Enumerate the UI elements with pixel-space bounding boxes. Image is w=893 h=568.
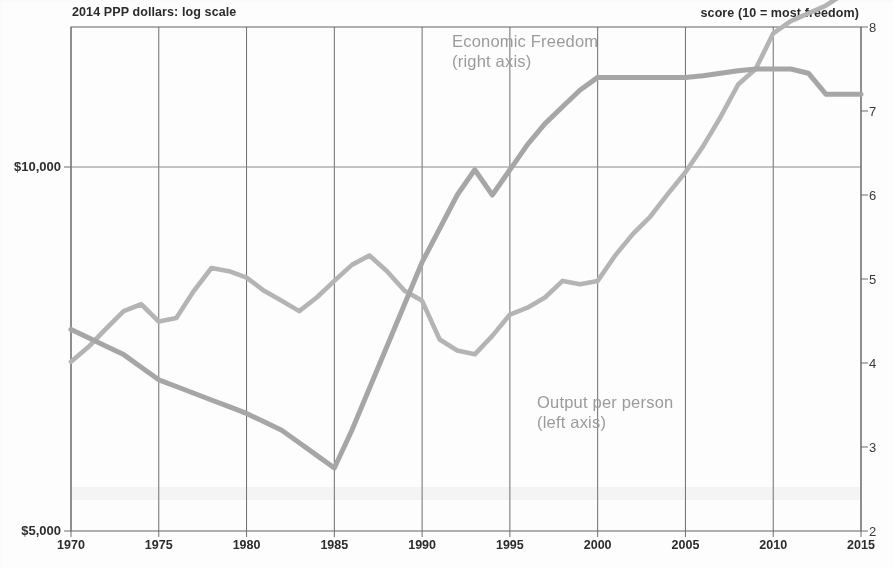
chart-plot-area — [0, 0, 893, 568]
x-axis-tick-2000: 2000 — [584, 538, 612, 552]
annotation-economic-freedom-line1: Economic Freedom — [452, 31, 598, 51]
annotation-output-per-person: Output per person (left axis) — [537, 392, 673, 432]
right-axis-tick-2: 2 — [869, 524, 876, 539]
right-axis-tick-7: 7 — [869, 104, 876, 119]
x-axis-tick-1985: 1985 — [320, 538, 348, 552]
x-axis-tick-1995: 1995 — [496, 538, 524, 552]
x-axis-tick-2005: 2005 — [672, 538, 700, 552]
right-axis-tick-8: 8 — [869, 20, 876, 35]
plot-background — [71, 27, 861, 531]
x-axis-tick-1990: 1990 — [408, 538, 436, 552]
right-axis-tick-4: 4 — [869, 356, 876, 371]
x-axis-tick-1970: 1970 — [57, 538, 85, 552]
x-axis-tick-2010: 2010 — [759, 538, 787, 552]
left-axis-tick-10000: $10,000 — [14, 159, 61, 174]
x-axis-tick-1975: 1975 — [145, 538, 173, 552]
x-axis-tick-1980: 1980 — [233, 538, 261, 552]
chart-container: 2014 PPP dollars: log scale score (10 = … — [0, 0, 893, 568]
right-axis-tick-6: 6 — [869, 188, 876, 203]
annotation-economic-freedom-line2: (right axis) — [452, 51, 598, 71]
right-axis-tick-3: 3 — [869, 440, 876, 455]
annotation-output-per-person-line1: Output per person — [537, 392, 673, 412]
annotation-output-per-person-line2: (left axis) — [537, 412, 673, 432]
right-axis-tick-5: 5 — [869, 272, 876, 287]
annotation-economic-freedom: Economic Freedom (right axis) — [452, 31, 598, 71]
left-axis-tick-5000: $5,000 — [21, 523, 61, 538]
x-axis-tick-2015: 2015 — [847, 538, 875, 552]
